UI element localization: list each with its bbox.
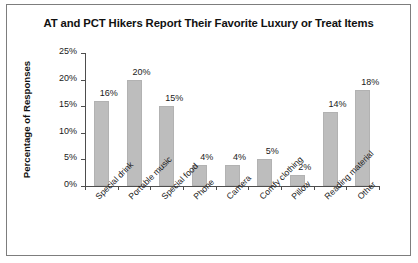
y-axis-tick-label: 20%: [59, 73, 77, 83]
x-axis-tick-mark: [150, 186, 151, 190]
y-axis-tick-label: 0%: [64, 179, 77, 189]
y-axis-title: Percentage of Responses: [21, 53, 35, 186]
y-axis-tick-mark: [81, 80, 85, 81]
chart-title: AT and PCT Hikers Report Their Favorite …: [7, 17, 410, 29]
y-axis-title-text: Percentage of Responses: [21, 53, 32, 186]
x-axis-tick-mark: [379, 186, 380, 190]
y-axis-line: [85, 53, 86, 186]
bar-value-label: 20%: [122, 67, 162, 77]
plot-area: 0%5%10%15%20%25% 16%20%15%4%4%5%2%14%18%…: [85, 53, 379, 186]
y-axis-tick-mark: [81, 106, 85, 107]
x-axis-tick-mark: [248, 186, 249, 190]
bar[interactable]: [94, 101, 109, 186]
y-axis-tick-label: 10%: [59, 126, 77, 136]
x-axis-tick-mark: [314, 186, 315, 190]
x-axis-tick-mark: [216, 186, 217, 190]
y-axis-tick-label: 5%: [64, 152, 77, 162]
x-axis-tick-mark: [118, 186, 119, 190]
chart-figure: AT and PCT Hikers Report Their Favorite …: [6, 4, 411, 256]
bar-value-label: 18%: [350, 77, 390, 87]
y-axis-tick-label: 15%: [59, 99, 77, 109]
bar-value-label: 16%: [89, 88, 129, 98]
x-axis-tick-mark: [85, 186, 86, 190]
bar[interactable]: [323, 112, 338, 186]
y-axis-tick-label: 25%: [59, 46, 77, 56]
bar-value-label: 14%: [318, 99, 358, 109]
x-axis-tick-mark: [281, 186, 282, 190]
bar-value-label: 15%: [154, 93, 194, 103]
y-axis-tick-mark: [81, 159, 85, 160]
x-axis-tick-mark: [183, 186, 184, 190]
y-axis-tick-mark: [81, 53, 85, 54]
x-axis-tick-mark: [346, 186, 347, 190]
y-axis-tick-mark: [81, 133, 85, 134]
bar[interactable]: [159, 106, 174, 186]
bar-value-label: 5%: [252, 146, 292, 156]
